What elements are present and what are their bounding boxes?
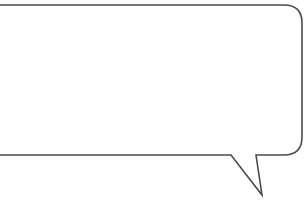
speech-bubble-text [10, 15, 290, 145]
